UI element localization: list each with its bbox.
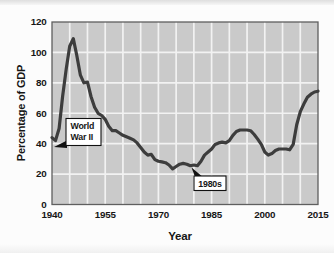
x-tick-1940: 1940 [42,209,64,220]
callout-label: World [71,121,95,131]
x-tick-1970: 1970 [148,209,170,220]
y-tick-40: 40 [36,138,47,149]
y-tick-80: 80 [36,77,47,88]
x-axis-title: Year [168,230,192,242]
callout-label: War II [71,132,93,142]
y-tick-100: 100 [31,47,47,58]
y-tick-120: 120 [31,16,47,27]
x-tick-1955: 1955 [95,209,117,220]
x-axis-tick-labels: 194019551970198520002015 [42,209,330,220]
y-axis-tick-labels: 020406080100120 [31,16,48,210]
x-tick-1985: 1985 [201,209,223,220]
y-axis-title: Percentage of GDP [15,65,27,161]
x-tick-2000: 2000 [254,209,276,220]
gdp-percentage-line-chart: 020406080100120 194019551970198520002015… [0,0,334,253]
y-tick-20: 20 [36,168,47,179]
y-tick-60: 60 [36,108,47,119]
x-tick-2015: 2015 [308,209,330,220]
callout-label: 1980s [198,179,222,189]
